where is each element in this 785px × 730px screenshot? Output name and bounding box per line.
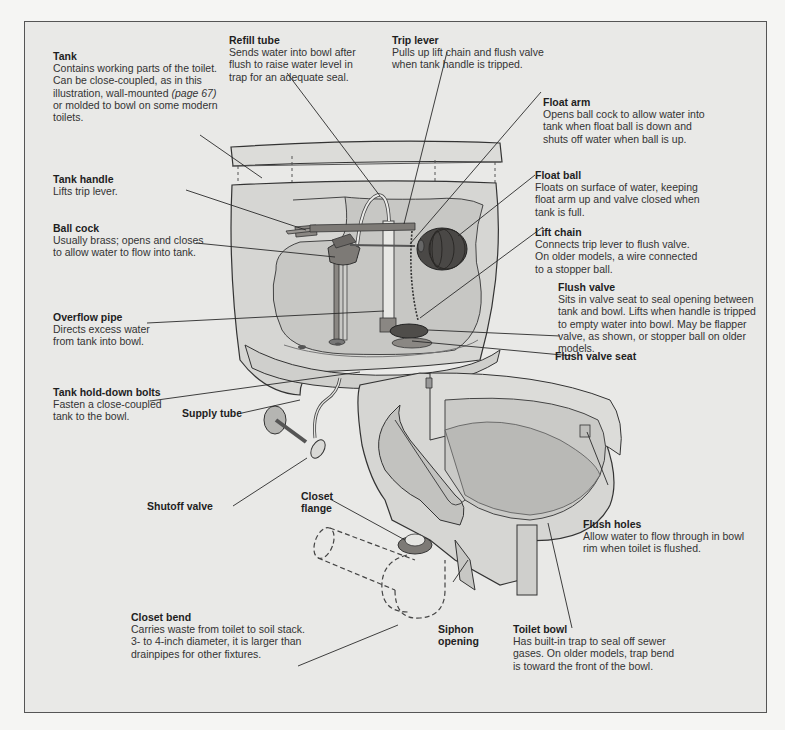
float-arm-drawing — [350, 245, 415, 246]
toilet-bowl-drawing — [358, 373, 621, 595]
label-tank: Tank Contains working parts of the toile… — [53, 50, 233, 123]
label-siphon-opening: Siphon opening — [438, 623, 479, 647]
label-overflow-pipe: Overflow pipe Directs excess water from … — [53, 311, 150, 348]
label-float-arm: Float arm Opens ball cock to allow water… — [543, 96, 705, 145]
label-lift-chain: Lift chain Connects trip lever to flush … — [535, 226, 697, 275]
label-ball-cock: Ball cock Usually brass; opens and close… — [53, 222, 204, 259]
label-closet-bend: Closet bend Carries waste from toilet to… — [131, 611, 305, 660]
label-float-ball: Float ball Floats on surface of water, k… — [535, 169, 700, 218]
label-supply-tube: Supply tube — [182, 407, 242, 419]
label-shutoff-valve: Shutoff valve — [147, 500, 213, 512]
supply-shutoff-drawing — [264, 378, 340, 461]
tank-lid-drawing — [231, 141, 502, 166]
label-tank-hold-down-bolts: Tank hold-down bolts Fasten a close-coup… — [53, 386, 162, 423]
label-toilet-bowl: Toilet bowl Has built-in trap to seal of… — [513, 623, 674, 672]
label-closet-flange: Closet flange — [301, 490, 333, 514]
label-tank-handle: Tank handle Lifts trip lever. — [53, 173, 118, 197]
label-trip-lever: Trip lever Pulls up lift chain and flush… — [392, 34, 544, 71]
label-flush-holes: Flush holes Allow water to flow through … — [583, 518, 744, 555]
label-refill-tube: Refill tube Sends water into bowl after … — [229, 34, 356, 83]
label-flush-valve: Flush valve Sits in valve seat to seal o… — [558, 281, 756, 354]
overflow-pipe-drawing — [383, 221, 394, 331]
